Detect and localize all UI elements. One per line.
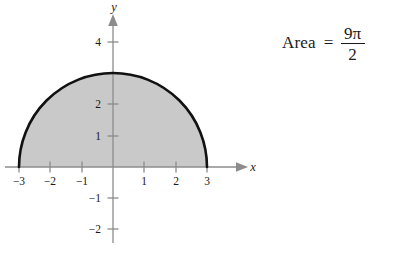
fraction-numerator: 9π — [342, 25, 363, 43]
x-tick-label-3: 3 — [204, 175, 210, 187]
fraction: 9π 2 — [341, 25, 365, 63]
x-tick-label-1: 1 — [141, 175, 147, 187]
formula-left-side: Area — [282, 33, 316, 53]
y-axis-arrow-icon — [108, 14, 118, 26]
y-tick-label-4: 4 — [95, 36, 101, 48]
y-tick-label-1: 1 — [95, 130, 101, 142]
x-tick-label--2: −2 — [44, 175, 56, 187]
x-tick-label--3: −3 — [13, 175, 25, 187]
x-axis-label: x — [249, 160, 256, 174]
coordinate-plot: −3 −2 −1 1 2 3 4 2 1 −1 −2 x y — [0, 0, 260, 253]
y-axis-label: y — [109, 0, 117, 14]
y-tick-label-2: 2 — [95, 98, 101, 110]
y-tick-label--1: −1 — [89, 192, 101, 204]
equals-sign: = — [324, 33, 334, 53]
y-tick-label--2: −2 — [89, 223, 101, 235]
x-axis-arrow-icon — [236, 162, 248, 172]
fraction-denominator: 2 — [346, 44, 359, 63]
figure-root: −3 −2 −1 1 2 3 4 2 1 −1 −2 x y Area = 9π… — [0, 0, 394, 253]
x-tick-label-2: 2 — [173, 175, 179, 187]
area-formula: Area = 9π 2 — [282, 24, 365, 62]
x-tick-label--1: −1 — [76, 175, 88, 187]
